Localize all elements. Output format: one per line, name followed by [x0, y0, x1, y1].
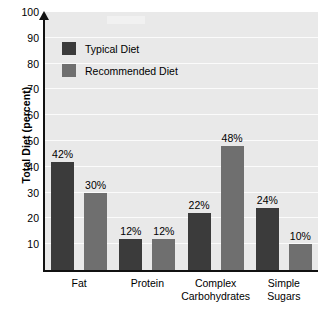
bar-value-label: 30% [85, 179, 106, 191]
legend-swatch-icon [62, 64, 76, 77]
y-tick-label: 80 [5, 58, 39, 70]
chart-legend: Typical Diet Recommended Diet [62, 42, 178, 86]
y-tick-label: 20 [5, 212, 39, 224]
page-artifact [107, 16, 145, 24]
legend-label: Typical Diet [85, 43, 139, 55]
bar-value-label: 22% [189, 199, 210, 211]
bar [119, 239, 142, 270]
legend-swatch-icon [62, 42, 76, 55]
bar-value-label: 12% [120, 225, 141, 237]
y-axis-tick-labels: 102030405060708090100 [0, 0, 39, 311]
x-axis-category-label: Simple Sugars [267, 277, 300, 302]
bar [256, 208, 279, 270]
legend-item: Typical Diet [62, 42, 178, 55]
y-tick-label: 100 [5, 6, 39, 18]
gridline [45, 166, 318, 167]
bar-value-label: 48% [222, 132, 243, 144]
bar [51, 162, 74, 270]
gridline [45, 140, 318, 141]
y-tick-label: 70 [5, 83, 39, 95]
y-tick-label: 50 [5, 135, 39, 147]
bar [188, 213, 211, 270]
bar [84, 193, 107, 270]
bar [289, 244, 312, 270]
bar-value-label: 42% [52, 148, 73, 160]
y-tick-label: 40 [5, 161, 39, 173]
y-tick-label: 10 [5, 238, 39, 250]
x-axis-category-label: Protein [131, 277, 164, 290]
bar-value-label: 12% [153, 225, 174, 237]
y-axis-line [43, 18, 45, 272]
y-tick-label: 60 [5, 109, 39, 121]
y-tick-label: 90 [5, 32, 39, 44]
bar-value-label: 24% [257, 194, 278, 206]
bar-chart: Total Diet (percent) 1020304050607080901… [0, 0, 325, 311]
legend-item: Recommended Diet [62, 64, 178, 77]
gridline [45, 114, 318, 115]
y-axis-arrow-icon [39, 11, 49, 20]
bar [152, 239, 175, 270]
x-axis-category-label: Fat [72, 277, 87, 290]
gridline [45, 88, 318, 89]
gridline [45, 37, 318, 38]
y-tick-label: 30 [5, 187, 39, 199]
bar-value-label: 10% [290, 230, 311, 242]
x-axis-category-label: Complex Carbohydrates [181, 277, 250, 302]
bar [221, 146, 244, 270]
legend-label: Recommended Diet [85, 65, 178, 77]
